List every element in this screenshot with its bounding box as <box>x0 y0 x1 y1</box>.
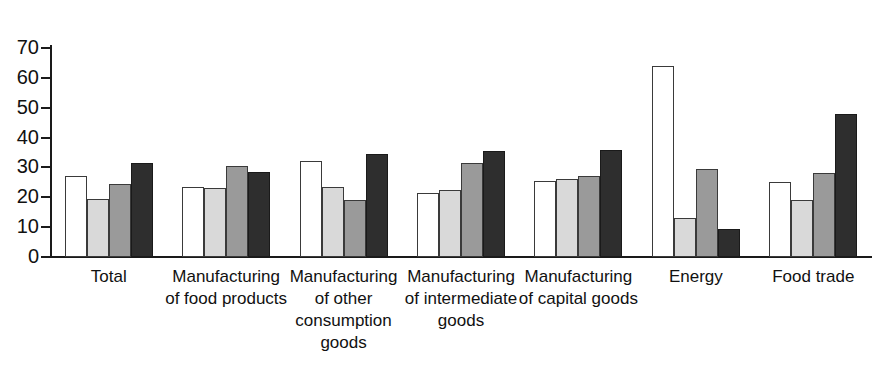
y-axis-tick-label: 10 <box>3 216 39 236</box>
bar <box>600 150 622 257</box>
x-axis-group-label: Food trade <box>747 266 880 288</box>
bar <box>461 163 483 257</box>
bar <box>769 182 791 257</box>
bar <box>483 151 505 257</box>
bar-chart: 706050403020100 TotalManufacturing of fo… <box>0 0 886 381</box>
x-axis-group-label: Energy <box>629 266 762 288</box>
bar <box>439 190 461 257</box>
x-axis-group-label: Manufacturing of food products <box>159 266 292 310</box>
bar <box>65 176 87 257</box>
x-axis-group-label: Manufacturing of capital goods <box>512 266 645 310</box>
bar <box>556 179 578 257</box>
bar <box>87 199 109 257</box>
bar <box>366 154 388 257</box>
y-axis-tick <box>41 196 50 198</box>
x-axis-group-label: Manufacturing of other consumption goods <box>277 266 410 354</box>
bar <box>674 218 696 257</box>
y-axis-tick-label: 60 <box>3 67 39 87</box>
bar <box>226 166 248 257</box>
y-axis-tick <box>41 47 50 49</box>
bar <box>248 172 270 257</box>
bar <box>718 229 740 257</box>
y-axis-tick <box>41 77 50 79</box>
y-axis-tick <box>41 226 50 228</box>
bar <box>131 163 153 257</box>
y-axis-tick-label: 20 <box>3 186 39 206</box>
bar <box>696 169 718 257</box>
y-axis-tick <box>41 256 50 258</box>
bar <box>300 161 322 257</box>
x-axis-group-label: Manufacturing of intermediate goods <box>394 266 527 332</box>
bar <box>322 187 344 257</box>
bar <box>791 200 813 257</box>
y-axis-tick-label: 0 <box>3 246 39 266</box>
y-axis-tick <box>41 137 50 139</box>
bars-layer <box>50 40 872 257</box>
y-axis-tick-labels: 706050403020100 <box>0 0 39 381</box>
bar <box>652 66 674 257</box>
bar <box>534 181 556 257</box>
bar <box>204 188 226 257</box>
bar <box>182 187 204 257</box>
bar <box>578 176 600 257</box>
bar <box>835 114 857 257</box>
y-axis-tick <box>41 107 50 109</box>
y-axis-tick-label: 30 <box>3 156 39 176</box>
bar <box>813 173 835 257</box>
x-axis-group-label: Total <box>42 266 175 288</box>
y-axis-tick-label: 50 <box>3 97 39 117</box>
y-axis-tick-label: 40 <box>3 127 39 147</box>
y-axis-tick-label: 70 <box>3 37 39 57</box>
y-axis-tick <box>41 166 50 168</box>
bar <box>109 184 131 257</box>
bar <box>344 200 366 257</box>
bar <box>417 193 439 257</box>
